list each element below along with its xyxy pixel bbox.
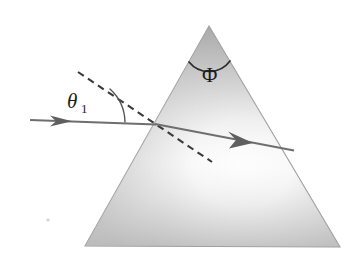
incident-ray (30, 120, 156, 125)
prism-base-shading (85, 26, 340, 247)
prism-refraction-figure: θ 1 Φ (0, 0, 359, 259)
angle-theta1-symbol: θ (67, 89, 77, 113)
angle-theta1-subscript: 1 (81, 101, 88, 116)
scan-speck (46, 218, 49, 221)
angle-theta1-label-group: θ 1 (67, 89, 88, 116)
angle-phi-symbol: Φ (202, 63, 217, 87)
prism-shape-group (85, 26, 340, 247)
figure-canvas: θ 1 Φ (0, 0, 359, 259)
